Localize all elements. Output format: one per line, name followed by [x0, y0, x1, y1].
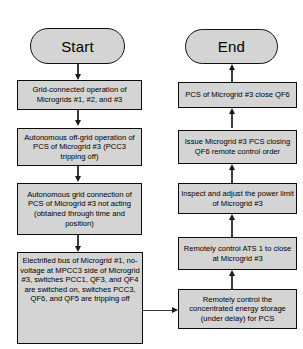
arrow-up-icon-R2-to-R1 — [229, 108, 235, 114]
arrow-up-icon-R3-to-R2 — [229, 164, 235, 170]
process-box-R1-label: PCS of Microgrid #3 close QF6 — [181, 90, 294, 100]
connector-R5-to-R4 — [231, 276, 232, 289]
terminator-start-label: Start — [61, 38, 94, 55]
connector-R4-to-R3 — [231, 220, 232, 237]
process-box-R3[interactable]: Inspect and adjust the power limit of Mi… — [178, 183, 297, 214]
process-box-L2[interactable]: Autonomous off-grid operation of PCS of … — [17, 128, 142, 166]
process-box-R4-label: Remotely control ATS 1 to close at Micro… — [181, 244, 294, 263]
arrow-up-icon-R5-to-R4 — [229, 270, 235, 276]
process-box-L2-label: Autonomous off-grid operation of PCS of … — [20, 133, 139, 162]
process-box-L3[interactable]: Autonomous grid connection of PCS of Mic… — [17, 183, 142, 235]
process-box-L4-label: Electrified bus of Microgrid #1, no-volt… — [20, 256, 140, 304]
process-box-L3-label: Autonomous grid connection of PCS of Mic… — [20, 190, 139, 228]
process-box-R2-label: Issue Microgrid #3 PCS closing QF6 remot… — [181, 137, 294, 156]
connector-L4-to-R5 — [143, 310, 173, 311]
process-box-R2[interactable]: Issue Microgrid #3 PCS closing QF6 remot… — [178, 130, 297, 164]
connector-R2-to-R1 — [231, 114, 232, 128]
process-box-R1[interactable]: PCS of Microgrid #3 close QF6 — [178, 82, 297, 108]
terminator-end[interactable]: End — [185, 29, 278, 64]
connector-R3-to-R2 — [231, 170, 232, 183]
connector-R1-to-end — [231, 70, 232, 82]
arrow-up-icon-R1-to-end — [229, 64, 235, 70]
arrow-down-icon-L1-to-L2 — [75, 120, 81, 126]
terminator-start[interactable]: Start — [30, 28, 125, 64]
process-box-L4[interactable]: Electrified bus of Microgrid #1, no-volt… — [17, 252, 143, 344]
flowchart-canvas: Start Grid-connected operation of Microg… — [0, 0, 303, 349]
process-box-L1-label: Grid-connected operation of Microgrids #… — [20, 85, 139, 104]
process-box-R5[interactable]: Remotely control the concentrated energy… — [178, 289, 297, 329]
terminator-end-label: End — [218, 38, 245, 55]
process-box-R5-label: Remotely control the concentrated energy… — [181, 295, 294, 324]
process-box-R3-label: Inspect and adjust the power limit of Mi… — [181, 189, 294, 208]
arrow-down-icon-L2-to-L3 — [75, 176, 81, 182]
arrow-up-icon-R4-to-R3 — [229, 214, 235, 220]
process-box-R4[interactable]: Remotely control ATS 1 to close at Micro… — [178, 237, 297, 270]
process-box-L1[interactable]: Grid-connected operation of Microgrids #… — [17, 80, 142, 110]
